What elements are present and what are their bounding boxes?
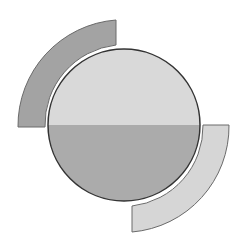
diagram-canvas	[0, 0, 242, 248]
